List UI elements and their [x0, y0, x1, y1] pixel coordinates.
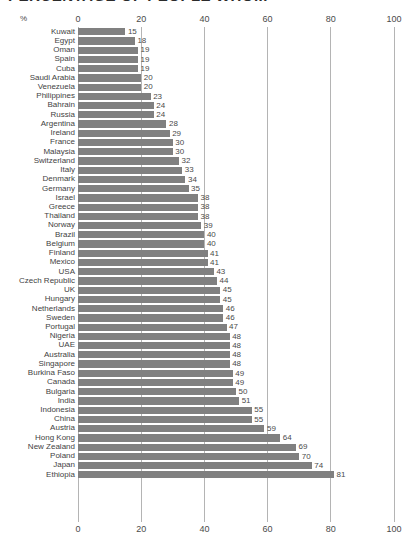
- bar-value-label: 20: [144, 83, 153, 91]
- bar-category-label: Saudi Arabia: [30, 74, 75, 82]
- bar-row: Czech Republic44: [0, 277, 411, 286]
- bar: [78, 222, 201, 229]
- bar-value-label: 64: [283, 434, 292, 442]
- bar-value-label: 69: [299, 443, 308, 451]
- bar: [78, 167, 182, 174]
- bar-category-label: Mexico: [50, 258, 75, 266]
- bar: [78, 277, 217, 284]
- bar-category-label: Belgium: [46, 240, 75, 248]
- bar-value-label: 49: [235, 379, 244, 387]
- bar: [78, 204, 198, 211]
- plot-area: Kuwait15Egypt18Oman19Spain19Cuba19Saudi …: [0, 0, 411, 549]
- bar: [78, 333, 230, 340]
- bar-category-label: Brazil: [55, 231, 75, 239]
- bar: [78, 231, 204, 238]
- bar-value-label: 19: [141, 46, 150, 54]
- bar-value-label: 45: [223, 296, 232, 304]
- bar-category-label: Nigeria: [50, 332, 75, 340]
- bar: [78, 453, 299, 460]
- bar-value-label: 30: [175, 139, 184, 147]
- bar-value-label: 19: [141, 56, 150, 64]
- bar: [78, 194, 198, 201]
- bar-value-label: 59: [267, 425, 276, 433]
- bar-category-label: Norway: [48, 221, 75, 229]
- bar: [78, 360, 230, 367]
- bar-value-label: 30: [175, 148, 184, 156]
- bar: [78, 379, 233, 386]
- bar: [78, 407, 252, 414]
- bar-value-label: 50: [239, 388, 248, 396]
- bar-value-label: 33: [185, 166, 194, 174]
- bar-value-label: 15: [128, 28, 137, 36]
- bar: [78, 388, 236, 395]
- bar-category-label: Germany: [42, 185, 75, 193]
- bar-value-label: 55: [254, 406, 263, 414]
- bar-value-label: 48: [232, 351, 241, 359]
- bar-category-label: Hungary: [45, 295, 75, 303]
- x-tick-label-20: 20: [136, 524, 146, 534]
- bar-category-label: Australia: [44, 351, 75, 359]
- bar-category-label: Singapore: [39, 360, 75, 368]
- bar: [78, 351, 230, 358]
- bar-value-label: 34: [188, 176, 197, 184]
- bar-category-label: Russia: [51, 111, 75, 119]
- bar: [78, 462, 312, 469]
- bar-category-label: Austria: [50, 424, 75, 432]
- bar: [78, 47, 138, 54]
- bar: [78, 185, 189, 192]
- bar: [78, 93, 151, 100]
- bar-category-label: Italy: [60, 166, 75, 174]
- bar: [78, 342, 230, 349]
- bar: [78, 444, 296, 451]
- bar-category-label: Indonesia: [40, 406, 75, 414]
- bar-category-label: India: [58, 397, 75, 405]
- bar-category-label: Ireland: [51, 129, 75, 137]
- bar: [78, 471, 334, 478]
- bar-value-label: 40: [207, 231, 216, 239]
- bar-category-label: USA: [59, 268, 75, 276]
- bar: [78, 157, 179, 164]
- bar-category-label: UK: [64, 286, 75, 294]
- bar: [78, 84, 141, 91]
- bar-value-label: 29: [172, 130, 181, 138]
- bar-category-label: Spain: [55, 55, 75, 63]
- bar: [78, 240, 204, 247]
- bar-value-label: 23: [153, 93, 162, 101]
- bar-value-label: 19: [141, 65, 150, 73]
- bar: [78, 28, 125, 35]
- bar: [78, 434, 280, 441]
- bar-category-label: Malaysia: [43, 148, 75, 156]
- bar-value-label: 49: [235, 370, 244, 378]
- bar-category-label: Oman: [53, 46, 75, 54]
- bar: [78, 425, 264, 432]
- bar-value-label: 38: [201, 213, 210, 221]
- bar-value-label: 43: [216, 268, 225, 276]
- bar: [78, 111, 154, 118]
- x-tick-label-80: 80: [326, 524, 336, 534]
- bar: [78, 213, 198, 220]
- bar-value-label: 20: [144, 74, 153, 82]
- bar: [78, 370, 233, 377]
- bar-category-label: Sweden: [46, 314, 75, 322]
- bar-category-label: China: [54, 415, 75, 423]
- x-tick-label-60: 60: [263, 524, 273, 534]
- bar-value-label: 35: [191, 185, 200, 193]
- bar-value-label: 46: [226, 314, 235, 322]
- bar-category-label: Denmark: [43, 175, 75, 183]
- bar-value-label: 47: [229, 323, 238, 331]
- bar: [78, 139, 173, 146]
- bar-value-label: 38: [201, 203, 210, 211]
- bar: [78, 397, 239, 404]
- bar: [78, 268, 214, 275]
- bar: [78, 416, 252, 423]
- bar: [78, 130, 170, 137]
- bar-value-label: 45: [223, 286, 232, 294]
- bar-value-label: 48: [232, 360, 241, 368]
- bar-category-label: Thailand: [44, 212, 75, 220]
- x-axis-bottom: 020406080100: [0, 524, 411, 535]
- bar: [78, 259, 208, 266]
- bar-row: Ethiopia81: [0, 471, 411, 480]
- bar-value-label: 24: [156, 102, 165, 110]
- bar-category-label: Switzerland: [34, 157, 75, 165]
- x-tick-label-40: 40: [199, 524, 209, 534]
